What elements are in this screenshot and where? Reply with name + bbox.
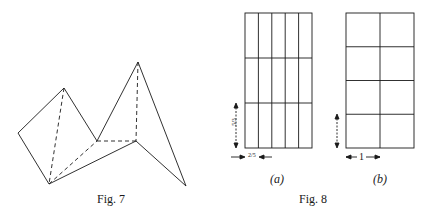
figure-7-diagram xyxy=(0,0,429,215)
fig7-caption: Fig. 7 xyxy=(97,192,125,207)
fig8a-height-label: 5/3 xyxy=(231,118,237,126)
fig8a-panel-label: (a) xyxy=(270,172,284,187)
fig7-solid-left xyxy=(18,62,186,186)
fig8a-width-label: 2/5 xyxy=(248,152,256,158)
fig8-caption: Fig. 8 xyxy=(299,192,327,207)
fig8b-panel-label: (b) xyxy=(373,172,387,187)
fig8b-width-label: 1 xyxy=(359,151,364,162)
